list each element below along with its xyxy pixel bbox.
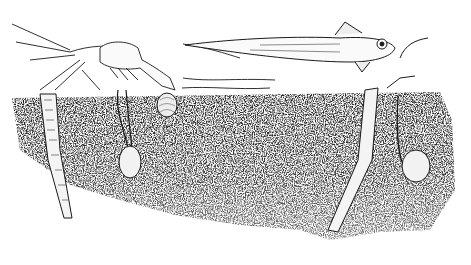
shrimp [12,24,175,90]
sediment [12,92,455,240]
clam-surface [157,93,177,117]
seafloor-illustration [0,0,471,265]
fish [185,22,395,72]
